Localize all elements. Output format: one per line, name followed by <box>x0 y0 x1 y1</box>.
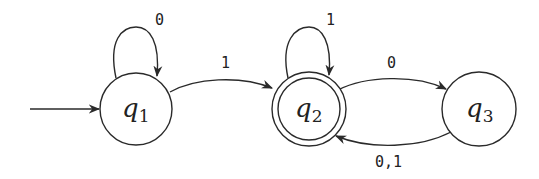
edge-q3-q2 <box>336 132 451 145</box>
state-q1-base: q <box>122 93 139 123</box>
edge-label-q3-q2: 0,1 <box>375 153 402 171</box>
edge-label-q1-q1: 0 <box>155 11 164 29</box>
state-q2-sub: 2 <box>312 106 323 126</box>
state-q1: q1 <box>100 73 172 145</box>
edge-q1-q2 <box>170 80 272 92</box>
edge-q2-q2 <box>286 27 330 78</box>
automaton-diagram: 0 1 1 0 0,1 q1 q2 q3 <box>0 0 539 179</box>
state-q3-sub: 3 <box>483 106 494 126</box>
state-q2-base: q <box>295 93 312 123</box>
edge-q1-q1 <box>114 27 158 78</box>
state-q3: q3 <box>442 72 516 146</box>
edge-q2-q3 <box>338 79 446 90</box>
state-q1-sub: 1 <box>139 106 150 126</box>
state-q3-base: q <box>466 93 483 123</box>
edge-label-q2-q2: 1 <box>326 11 335 29</box>
state-q2: q2 <box>272 72 346 146</box>
edge-label-q2-q3: 0 <box>387 54 396 72</box>
edge-label-q1-q2: 1 <box>221 54 230 72</box>
